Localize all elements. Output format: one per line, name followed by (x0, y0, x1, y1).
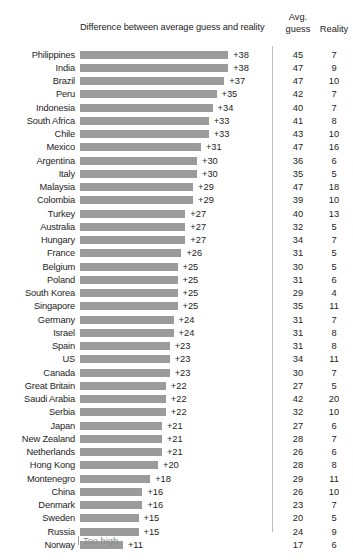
row-reality-value: 6 (316, 156, 352, 166)
chart-row: Colombia+293910 (0, 194, 353, 207)
row-bar (80, 263, 178, 271)
chart-row: South Africa+33418 (0, 114, 353, 127)
row-difference-value: +38 (233, 63, 249, 73)
row-country-label: Mexico (0, 142, 75, 152)
row-country-label: Serbia (0, 407, 75, 417)
chart-row: New Zealand+21287 (0, 432, 353, 445)
row-difference-value: +37 (229, 76, 245, 86)
row-avg-guess-value: 41 (281, 116, 315, 126)
row-difference-value: +27 (190, 222, 206, 232)
row-reality-value: 5 (316, 262, 352, 272)
row-avg-guess-value: 30 (281, 368, 315, 378)
row-reality-value: 5 (316, 513, 352, 523)
row-reality-value: 11 (316, 354, 352, 364)
row-avg-guess-value: 17 (281, 540, 315, 550)
row-reality-value: 9 (316, 63, 352, 73)
chart-row: Canada+23307 (0, 366, 353, 379)
chart-row: South Korea+25294 (0, 287, 353, 300)
row-avg-guess-value: 34 (281, 354, 315, 364)
row-reality-value: 6 (316, 447, 352, 457)
row-reality-value: 7 (316, 89, 352, 99)
chart-row: Netherlands+21266 (0, 446, 353, 459)
row-bar (80, 64, 228, 72)
row-difference-value: +23 (175, 341, 191, 351)
row-country-label: Argentina (0, 156, 75, 166)
row-difference-value: +23 (175, 368, 191, 378)
row-avg-guess-value: 27 (281, 421, 315, 431)
row-difference-value: +26 (186, 248, 202, 258)
row-difference-value: +16 (147, 500, 163, 510)
row-difference-value: +15 (144, 513, 160, 523)
row-difference-value: +31 (206, 142, 222, 152)
row-avg-guess-value: 27 (281, 381, 315, 391)
row-reality-value: 6 (316, 540, 352, 550)
row-reality-value: 10 (316, 76, 352, 86)
row-country-label: Saudi Arabia (0, 394, 75, 404)
row-reality-value: 16 (316, 142, 352, 152)
row-difference-value: +27 (190, 209, 206, 219)
row-avg-guess-value: 31 (281, 275, 315, 285)
axis-tick-icon (78, 536, 79, 545)
row-bar (80, 461, 158, 469)
row-bar (80, 90, 217, 98)
row-reality-value: 10 (316, 407, 352, 417)
chart-row: Philippines+38457 (0, 48, 353, 61)
axis-note-label: Too high (83, 536, 118, 546)
chart-row: India+38479 (0, 61, 353, 74)
row-country-label: Netherlands (0, 447, 75, 457)
row-country-label: New Zealand (0, 434, 75, 444)
row-bar (80, 130, 209, 138)
row-bar (80, 355, 170, 363)
row-difference-value: +22 (171, 407, 187, 417)
row-bar (80, 77, 224, 85)
row-bar (80, 276, 178, 284)
row-bar (80, 342, 170, 350)
row-country-label: Hong Kong (0, 460, 75, 470)
row-difference-value: +30 (202, 169, 218, 179)
row-difference-value: +18 (155, 474, 171, 484)
row-avg-guess-value: 47 (281, 142, 315, 152)
chart-row: Serbia+223210 (0, 406, 353, 419)
row-reality-value: 6 (316, 421, 352, 431)
row-reality-value: 10 (316, 487, 352, 497)
chart-row: Chile+334310 (0, 128, 353, 141)
row-reality-value: 11 (316, 474, 352, 484)
row-country-label: Japan (0, 421, 75, 431)
row-reality-value: 8 (316, 460, 352, 470)
row-avg-guess-value: 24 (281, 527, 315, 537)
row-country-label: Australia (0, 222, 75, 232)
row-avg-guess-value: 28 (281, 460, 315, 470)
row-avg-guess-value: 35 (281, 169, 315, 179)
row-difference-value: +30 (202, 156, 218, 166)
row-bar (80, 196, 193, 204)
row-reality-value: 7 (316, 500, 352, 510)
row-bar (80, 488, 142, 496)
row-bar (80, 170, 197, 178)
chart-row: Peru+35427 (0, 88, 353, 101)
row-difference-value: +11 (128, 540, 143, 550)
chart-container: Difference between average guess and rea… (0, 0, 353, 560)
row-difference-value: +25 (183, 288, 199, 298)
row-difference-value: +22 (171, 394, 187, 404)
row-difference-value: +21 (167, 421, 183, 431)
row-bar (80, 528, 139, 536)
row-bar (80, 435, 162, 443)
chart-rows: Philippines+38457India+38479Brazil+37471… (0, 48, 353, 552)
chart-row: France+26315 (0, 247, 353, 260)
row-reality-value: 7 (316, 368, 352, 378)
row-reality-value: 8 (316, 116, 352, 126)
row-avg-guess-value: 28 (281, 434, 315, 444)
row-avg-guess-value: 23 (281, 500, 315, 510)
row-difference-value: +34 (218, 103, 234, 113)
row-avg-guess-value: 36 (281, 156, 315, 166)
chart-row: Germany+24317 (0, 313, 353, 326)
row-country-label: Montenegro (0, 474, 75, 484)
row-country-label: Israel (0, 328, 75, 338)
row-reality-value: 7 (316, 103, 352, 113)
row-avg-guess-value: 42 (281, 89, 315, 99)
row-country-label: Sweden (0, 513, 75, 523)
chart-row: Poland+25316 (0, 273, 353, 286)
row-difference-value: +29 (198, 195, 214, 205)
row-difference-value: +38 (233, 50, 249, 60)
row-avg-guess-value: 30 (281, 262, 315, 272)
